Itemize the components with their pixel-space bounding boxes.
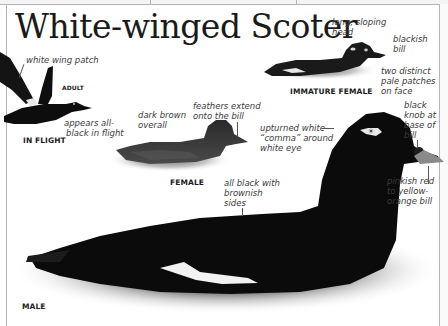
annotation-bill-color-line3: orange bill bbox=[387, 196, 432, 207]
annotation-bill-color-line2: to yellow- bbox=[387, 186, 428, 197]
annotation-black-knob-line4: bill bbox=[404, 130, 416, 141]
bird-illustrations bbox=[0, 0, 448, 326]
annotation-appears-black-line1: appears all- bbox=[64, 118, 114, 129]
female-bird-illustration bbox=[108, 120, 248, 172]
page-title: White-winged Scoter bbox=[15, 7, 357, 46]
leader-line bbox=[322, 128, 334, 129]
annotation-comma-eye-line3: white eye bbox=[260, 143, 301, 154]
caption-adult: ADULT bbox=[62, 84, 84, 91]
leader-line bbox=[242, 208, 243, 216]
caption-immature-female: IMMATURE FEMALE bbox=[290, 87, 373, 96]
annotation-white-wing-patch: white wing patch bbox=[26, 55, 99, 66]
caption-female: FEMALE bbox=[170, 178, 204, 187]
annotation-dark-brown-line1: dark brown bbox=[138, 110, 186, 121]
annotation-comma-eye-line1: upturned white bbox=[260, 123, 325, 134]
annotation-pale-patches-line2: pale patches bbox=[381, 76, 436, 87]
annotation-all-black-line1: all black with bbox=[224, 178, 280, 189]
annotation-appears-black-line2: black in flight bbox=[66, 128, 124, 139]
annotation-blackish-bill-line1: blackish bbox=[393, 34, 428, 45]
annotation-long-sloping-head-line1: long, sloping bbox=[332, 17, 386, 28]
annotation-pale-patches-line3: on face bbox=[381, 86, 412, 97]
annotation-black-knob-line1: black bbox=[404, 100, 427, 111]
annotation-feathers-extend-line1: feathers extend bbox=[193, 101, 261, 112]
caption-male: MALE bbox=[22, 302, 46, 311]
annotation-comma-eye-line2: “comma” around bbox=[260, 133, 333, 144]
annotation-black-knob-line2: knob at bbox=[404, 110, 436, 121]
annotation-feathers-extend-line2: onto the bill bbox=[193, 111, 244, 122]
annotation-all-black-line3: sides bbox=[224, 198, 246, 209]
immature-female-bird-illustration bbox=[258, 42, 386, 80]
leader-line bbox=[428, 166, 429, 184]
leader-line bbox=[417, 140, 418, 148]
caption-in-flight: IN FLIGHT bbox=[23, 136, 66, 145]
leader-line bbox=[237, 122, 238, 136]
annotation-long-sloping-head-line2: head bbox=[332, 27, 353, 38]
annotation-all-black-line2: brownish bbox=[224, 188, 263, 199]
annotation-black-knob-line3: base of bbox=[404, 120, 435, 131]
annotation-dark-brown-line2: overall bbox=[138, 120, 167, 131]
annotation-blackish-bill-line2: bill bbox=[393, 44, 405, 55]
annotation-pale-patches-line1: two distinct bbox=[381, 66, 430, 77]
